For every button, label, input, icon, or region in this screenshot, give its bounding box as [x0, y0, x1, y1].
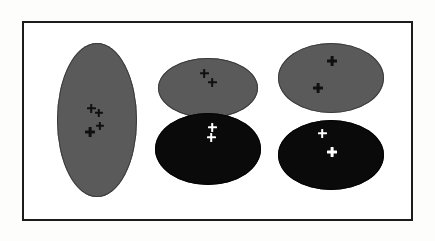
marker-plus-icon: [313, 83, 323, 93]
ellipse-canvas: [0, 0, 435, 241]
marker-plus-icon: [318, 129, 327, 138]
figure-root: [0, 0, 435, 241]
marker-plus-icon: [327, 147, 337, 157]
plus-vertical-bar: [331, 147, 334, 157]
plus-vertical-bar: [331, 56, 334, 66]
group-right: [0, 0, 435, 241]
plus-vertical-bar: [317, 83, 320, 93]
marker-plus-icon: [327, 56, 337, 66]
ellipse-right-gray: [278, 43, 384, 113]
plus-vertical-bar: [321, 129, 324, 138]
